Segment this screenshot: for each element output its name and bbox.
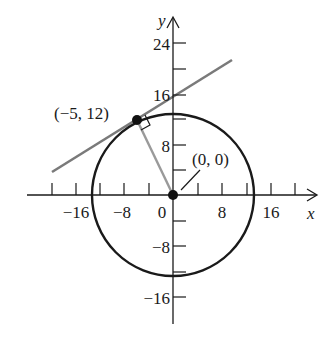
y-axis-label: y: [156, 11, 166, 30]
x-tick-label: −16: [63, 203, 90, 222]
y-tick-label: 16: [153, 86, 170, 105]
diagram-svg: y x −16 −8 0 8 16 24 16 8 −8 −16 (−5, 12…: [0, 0, 330, 338]
y-tick-label: −8: [152, 238, 170, 257]
point-tangency-label: (−5, 12): [54, 104, 109, 123]
diagram-canvas: y x −16 −8 0 8 16 24 16 8 −8 −16 (−5, 12…: [0, 0, 330, 338]
y-tick-label: 8: [162, 137, 171, 156]
x-tick-label: 0: [158, 203, 167, 222]
point-origin-label: (0, 0): [192, 150, 229, 169]
x-tick-label: 16: [263, 203, 280, 222]
x-axis-label: x: [306, 204, 315, 223]
x-tick-label: −8: [113, 203, 131, 222]
origin-leader-line: [181, 170, 200, 190]
y-tick-label: 24: [153, 35, 171, 54]
point-origin: [168, 190, 178, 200]
y-ticks: [173, 43, 186, 297]
radius-line: [137, 120, 173, 195]
y-tick-label: −16: [143, 289, 170, 308]
x-tick-label: 8: [218, 203, 227, 222]
point-tangency: [132, 115, 142, 125]
